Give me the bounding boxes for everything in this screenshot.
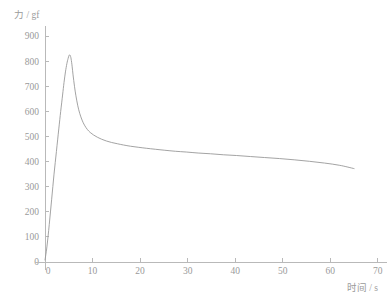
x-axis-ticks: 010203040506070 [46, 258, 383, 276]
y-tick-label: 400 [25, 157, 40, 167]
y-tick-label: 300 [25, 182, 40, 192]
y-tick-label: 500 [25, 132, 40, 142]
data-curve-force [45, 55, 354, 260]
y-tick-label: 800 [25, 57, 40, 67]
y-tick-label: 100 [25, 232, 40, 242]
x-tick-label: 60 [326, 266, 336, 276]
x-tick-label: 50 [278, 266, 288, 276]
chart-canvas: 0100200300400500600700800900 01020304050… [0, 0, 389, 305]
y-tick-label: 900 [25, 31, 40, 41]
x-axis-title: 时间 / s [347, 282, 378, 293]
x-tick-label: 0 [46, 266, 51, 276]
y-tick-label: 700 [25, 82, 40, 92]
x-tick-label: 40 [230, 266, 240, 276]
data-series-group [45, 55, 354, 260]
force-time-chart: 0100200300400500600700800900 01020304050… [0, 0, 389, 305]
y-axis-group: 0100200300400500600700800900 [25, 26, 49, 270]
y-tick-label: 600 [25, 107, 40, 117]
y-axis-title: 力 / gf [14, 9, 40, 20]
x-tick-label: 10 [88, 266, 98, 276]
x-tick-label: 20 [135, 266, 145, 276]
x-axis-group: 010203040506070 [35, 258, 387, 276]
y-tick-label: 200 [25, 207, 40, 217]
x-tick-label: 70 [373, 266, 383, 276]
x-tick-label: 30 [183, 266, 193, 276]
